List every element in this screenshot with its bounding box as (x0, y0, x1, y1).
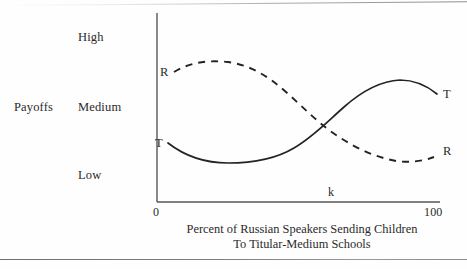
curve-t-solid (168, 80, 437, 163)
curve-r-label-left: R (160, 66, 169, 79)
curve-r-dashed (174, 61, 434, 161)
figure-page: Payoffs High Medium Low R T T R k 0 100 … (0, 0, 467, 269)
x-axis-caption-line-1: Percent of Russian Speakers Sending Chil… (157, 222, 447, 237)
curve-t-label-right: T (443, 88, 451, 101)
x-axis-caption: Percent of Russian Speakers Sending Chil… (157, 222, 447, 252)
curve-t-label-left: T (155, 137, 163, 150)
x-axis-marker-k: k (328, 186, 334, 198)
curve-r-label-right: R (443, 145, 452, 158)
x-axis-tick-min: 0 (153, 206, 159, 218)
x-axis-tick-max: 100 (424, 206, 442, 218)
x-axis-caption-line-2: To Titular-Medium Schools (157, 237, 447, 252)
